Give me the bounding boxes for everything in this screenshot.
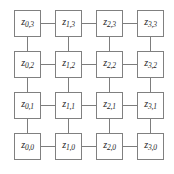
lattice-node-label: z0,0: [21, 140, 34, 152]
lattice-node-1-2: z1,2: [55, 51, 82, 78]
lattice-node-0-1: z0,1: [14, 92, 41, 119]
node-subscript: 0,0: [25, 143, 34, 152]
lattice-node-label: z3,3: [144, 17, 157, 29]
lattice-node-0-0: z0,0: [14, 133, 41, 160]
lattice-node-label: z1,2: [62, 58, 75, 70]
node-subscript: 3,2: [148, 61, 157, 70]
lattice-node-0-2: z0,2: [14, 51, 41, 78]
node-subscript: 2,3: [107, 20, 116, 29]
lattice-node-label: z1,0: [62, 140, 75, 152]
lattice-node-label: z3,2: [144, 58, 157, 70]
lattice-node-1-0: z1,0: [55, 133, 82, 160]
lattice-diagram: z0,3z1,3z2,3z3,3z0,2z1,2z2,2z3,2z0,1z1,1…: [0, 0, 174, 174]
lattice-node-3-2: z3,2: [137, 51, 164, 78]
node-subscript: 1,1: [66, 102, 75, 111]
node-subscript: 2,1: [107, 102, 116, 111]
node-subscript: 3,0: [148, 143, 157, 152]
lattice-node-1-3: z1,3: [55, 10, 82, 37]
lattice-node-label: z2,0: [103, 140, 116, 152]
lattice-node-label: z0,3: [21, 17, 34, 29]
lattice-node-label: z0,2: [21, 58, 34, 70]
node-subscript: 0,2: [25, 61, 34, 70]
lattice-node-label: z1,1: [62, 99, 75, 111]
lattice-node-3-0: z3,0: [137, 133, 164, 160]
node-subscript: 3,1: [148, 102, 157, 111]
lattice-node-2-2: z2,2: [96, 51, 123, 78]
node-subscript: 1,3: [66, 20, 75, 29]
lattice-node-label: z2,1: [103, 99, 116, 111]
lattice-node-label: z3,1: [144, 99, 157, 111]
lattice-node-label: z2,2: [103, 58, 116, 70]
lattice-node-label: z3,0: [144, 140, 157, 152]
lattice-node-2-1: z2,1: [96, 92, 123, 119]
lattice-node-2-3: z2,3: [96, 10, 123, 37]
node-subscript: 2,2: [107, 61, 116, 70]
node-subscript: 2,0: [107, 143, 116, 152]
node-subscript: 3,3: [148, 20, 157, 29]
node-subscript: 1,2: [66, 61, 75, 70]
node-subscript: 0,1: [25, 102, 34, 111]
lattice-node-1-1: z1,1: [55, 92, 82, 119]
lattice-node-label: z0,1: [21, 99, 34, 111]
lattice-node-label: z2,3: [103, 17, 116, 29]
lattice-node-2-0: z2,0: [96, 133, 123, 160]
node-subscript: 0,3: [25, 20, 34, 29]
lattice-node-label: z1,3: [62, 17, 75, 29]
lattice-node-3-1: z3,1: [137, 92, 164, 119]
node-subscript: 1,0: [66, 143, 75, 152]
lattice-node-3-3: z3,3: [137, 10, 164, 37]
lattice-node-0-3: z0,3: [14, 10, 41, 37]
